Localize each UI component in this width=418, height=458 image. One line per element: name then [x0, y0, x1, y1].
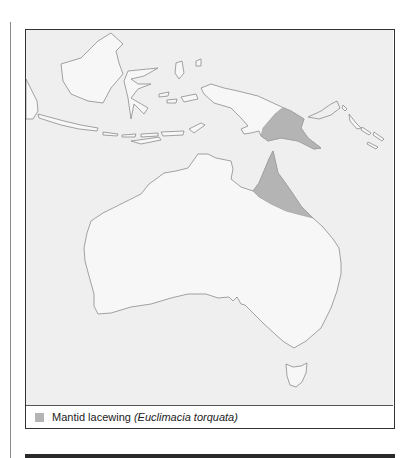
- tasmania-landmass: [286, 363, 307, 387]
- timor-island: [189, 123, 205, 133]
- legend-label: Mantid lacewing (Euclimacia torquata): [52, 411, 238, 423]
- next-section-header-bar: [25, 454, 395, 458]
- legend-swatch: [35, 413, 44, 422]
- distribution-map: [26, 30, 393, 406]
- java-island: [38, 114, 98, 131]
- maluku-islands: [159, 59, 201, 103]
- legend-scientific-name: (Euclimacia torquata): [134, 411, 238, 423]
- lesser-sunda-islands: [103, 131, 184, 144]
- distribution-map-figure: Mantid lacewing (Euclimacia torquata): [25, 29, 395, 429]
- map-legend: Mantid lacewing (Euclimacia torquata): [26, 406, 393, 428]
- borneo-landmass: [61, 33, 123, 103]
- page-margin-rule: [10, 22, 11, 458]
- solomon-islands: [349, 114, 384, 149]
- sumatra-landmass: [26, 79, 38, 119]
- map-graphic: [26, 30, 393, 405]
- new-britain-island: [308, 101, 340, 119]
- bougainville-island: [342, 105, 347, 111]
- legend-common-name: Mantid lacewing: [52, 411, 134, 423]
- australia-landmass: [84, 151, 341, 348]
- sulawesi-landmass: [124, 68, 158, 119]
